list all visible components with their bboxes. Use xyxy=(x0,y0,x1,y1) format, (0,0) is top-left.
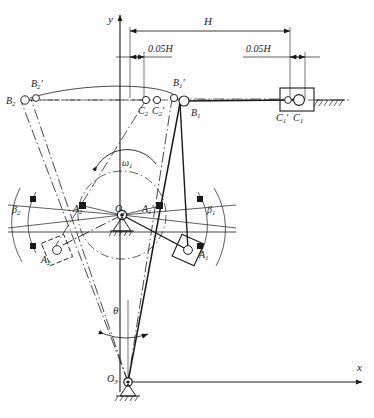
dimension-offset-right-label: 0.05H xyxy=(246,44,271,54)
axis-y-label: y xyxy=(108,14,113,25)
coupler-curve xyxy=(30,86,176,98)
point-label-O3: O3 xyxy=(107,374,118,384)
beta2-label: β2 xyxy=(12,205,20,215)
theta-label: θ xyxy=(113,305,118,316)
point-label-A2-prime: A2′ xyxy=(73,204,85,214)
dimension-offset-left xyxy=(116,52,172,100)
linkage-position-1 xyxy=(122,88,314,382)
point-label-B2: B2 xyxy=(6,96,16,106)
axis-x-label: x xyxy=(357,362,362,373)
omega-label: ω1 xyxy=(122,158,132,168)
linkage-position-2 xyxy=(21,95,161,382)
point-label-C2-prime: C2′ xyxy=(152,106,164,116)
point-label-A2: A2 xyxy=(41,255,51,265)
point-label-B1: B1 xyxy=(191,108,201,118)
point-label-C1: C1 xyxy=(293,113,303,123)
mechanism-diagram xyxy=(0,0,374,418)
dimension-H-label: H xyxy=(204,16,212,27)
dimension-offset-right xyxy=(243,52,320,100)
point-label-B1-prime: B1′ xyxy=(173,78,185,88)
point-label-B2-prime: B2′ xyxy=(31,79,43,89)
point-label-A1: A1 xyxy=(199,250,209,260)
dimension-H xyxy=(130,27,290,100)
point-label-O1: O1 xyxy=(115,204,126,214)
pivot-O3 xyxy=(115,378,140,401)
ground-hatch-right xyxy=(314,100,345,106)
dimension-offset-left-label: 0.05H xyxy=(148,44,173,54)
point-label-C2: C2 xyxy=(138,106,148,116)
point-label-A1-prime: A1′ xyxy=(142,204,154,214)
beta1-label: β1 xyxy=(207,205,215,215)
point-label-C1-prime: C1′ xyxy=(276,113,288,123)
